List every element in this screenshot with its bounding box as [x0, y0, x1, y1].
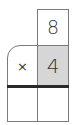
multiply-sign-icon: ×	[17, 60, 28, 73]
multiplicand-digit: 8	[47, 18, 59, 37]
answer-cell-tens[interactable]	[7, 86, 38, 122]
answer-cell-ones[interactable]	[37, 86, 69, 122]
equals-rule-line	[7, 85, 69, 88]
operator-cell: ×	[7, 45, 38, 87]
multiplicand-cell: 8	[37, 9, 69, 46]
multiplier-cell: 4	[37, 45, 69, 87]
multiplier-digit: 4	[47, 56, 60, 76]
